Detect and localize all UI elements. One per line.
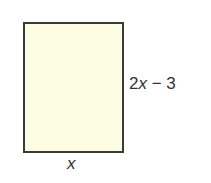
rectangle xyxy=(23,22,124,153)
height-label: 2x − 3 xyxy=(129,74,176,94)
width-label: x xyxy=(67,154,76,174)
